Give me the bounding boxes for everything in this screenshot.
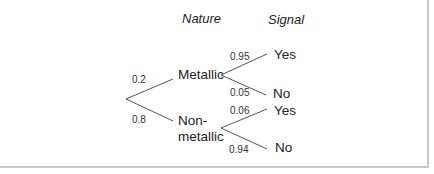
node-metallic: Metallic (178, 68, 224, 82)
header-signal: Signal (268, 13, 304, 26)
node-nonmetallic-line1: Non- (178, 114, 207, 128)
outcome-nonmetallic-yes: Yes (274, 104, 296, 118)
tree-edges (0, 0, 434, 174)
prob-nonmetallic-no: 0.94 (229, 145, 248, 155)
node-nonmetallic-line2: metallic (178, 130, 224, 144)
outcome-metallic-no: No (273, 87, 290, 101)
prob-nonmetallic-yes: 0.06 (230, 106, 249, 116)
outcome-nonmetallic-no: No (275, 141, 292, 155)
outcome-metallic-yes: Yes (274, 48, 296, 62)
header-nature: Nature (182, 12, 221, 25)
prob-metallic-yes: 0.95 (230, 52, 249, 62)
prob-metallic: 0.2 (132, 75, 146, 85)
prob-metallic-no: 0.05 (230, 88, 249, 98)
prob-nonmetallic: 0.8 (132, 115, 146, 125)
